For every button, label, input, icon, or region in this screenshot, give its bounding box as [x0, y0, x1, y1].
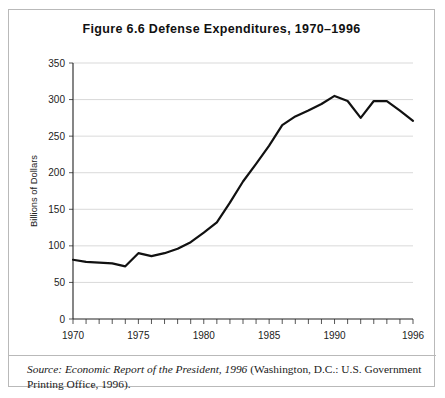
x-tick-label: 1975	[127, 330, 150, 341]
x-tick-label: 1970	[62, 330, 85, 341]
caption-divider	[9, 355, 436, 356]
source-publication: Economic Report of the President, 1996	[65, 363, 247, 375]
y-tick-label: 300	[48, 94, 65, 105]
y-tick-label: 50	[54, 277, 66, 288]
defense-expenditures-series	[73, 96, 413, 266]
y-tick-label: 250	[48, 131, 65, 142]
y-tick-label: 200	[48, 167, 65, 178]
y-tick-label: 100	[48, 240, 65, 251]
x-axis-ticks: 197019751980198519901996	[62, 319, 425, 341]
x-tick-label: 1985	[258, 330, 281, 341]
x-tick-label: 1990	[323, 330, 346, 341]
x-tick-label: 1996	[402, 330, 425, 341]
y-axis-label: Billions of Dollars	[28, 155, 39, 227]
grid-lines	[73, 63, 413, 282]
y-tick-label: 150	[48, 204, 65, 215]
y-tick-label: 350	[48, 58, 65, 69]
y-axis-ticks: 050100150200250300350	[48, 58, 73, 325]
source-caption: Source: Economic Report of the President…	[27, 362, 425, 391]
source-label: Source:	[27, 363, 62, 375]
y-tick-label: 0	[59, 314, 65, 325]
x-tick-label: 1980	[193, 330, 216, 341]
figure-container: Figure 6.6 Defense Expenditures, 1970–19…	[8, 9, 435, 387]
defense-expenditures-line-chart: 050100150200250300350 197019751980198519…	[9, 10, 436, 388]
